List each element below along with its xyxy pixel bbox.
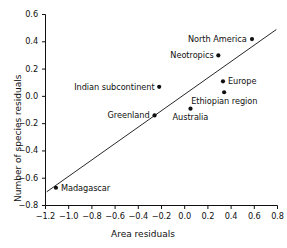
data-point — [222, 90, 226, 94]
data-point — [250, 37, 254, 41]
data-point-label: Indian subcontinent — [74, 82, 154, 92]
data-point — [152, 113, 156, 117]
data-point-label: Madagascar — [61, 183, 110, 193]
data-point — [216, 53, 220, 57]
x-axis-title: Area residuals — [0, 229, 286, 239]
data-point-label: North America — [188, 34, 247, 44]
y-tick-label: 0.4 — [8, 36, 38, 46]
y-tick-label: 0.2 — [8, 64, 38, 74]
data-point-label: Ethiopian region — [191, 96, 257, 106]
data-point — [157, 85, 161, 89]
data-point — [54, 186, 58, 190]
data-point — [188, 107, 192, 111]
regression-line — [47, 30, 277, 192]
data-points — [54, 37, 254, 190]
data-point-label: Europe — [228, 76, 257, 86]
data-point — [221, 79, 225, 83]
y-axis-title: Number of species residuals — [13, 75, 23, 202]
data-point-label: Greenland — [108, 110, 150, 120]
y-tick-label: 0.6 — [8, 9, 38, 19]
scatter-chart-figure: 0.60.40.20.0−0.2−0.4−0.6−0.8 −1.2−1.0−0.… — [0, 0, 286, 248]
data-point-label: Australia — [173, 112, 209, 122]
x-axis-ticks — [46, 206, 278, 210]
data-point-label: Neotropics — [170, 50, 213, 60]
x-tick-label: 0.8 — [263, 211, 287, 221]
trendline — [47, 30, 277, 192]
y-axis-ticks — [42, 15, 46, 206]
